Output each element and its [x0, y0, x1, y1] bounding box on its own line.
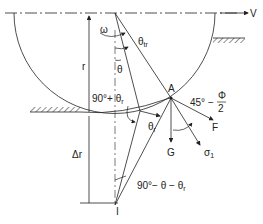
ground-hatch-left [30, 107, 80, 112]
line-center-A [115, 13, 171, 98]
point-A [170, 97, 173, 100]
label-delta-r: Δr [72, 149, 83, 160]
label-F: F [212, 122, 218, 133]
ground-hatch-right [213, 38, 245, 43]
label-theta-r: θr [148, 121, 157, 133]
label-I: I [116, 206, 119, 217]
label-V: V [250, 8, 257, 19]
label-two: 2 [218, 103, 224, 114]
label-45: 45° − [190, 97, 214, 108]
label-theta: θ [117, 64, 123, 75]
label-90-minus: 90°− θ − θr [137, 180, 186, 192]
label-90-plus: 90°+ θr [92, 93, 124, 105]
label-theta-tr: θtr [138, 36, 149, 48]
label-phi: Φ [218, 90, 226, 101]
label-G: G [167, 147, 175, 158]
label-sigma: σ1 [204, 147, 214, 159]
label-r: r [82, 61, 86, 72]
wheel-soil-diagram: V ω θtr θ r 90°+ θr A 45° − Φ 2 θr F G σ… [0, 0, 263, 224]
label-omega: ω [100, 24, 108, 35]
label-A: A [168, 83, 175, 94]
